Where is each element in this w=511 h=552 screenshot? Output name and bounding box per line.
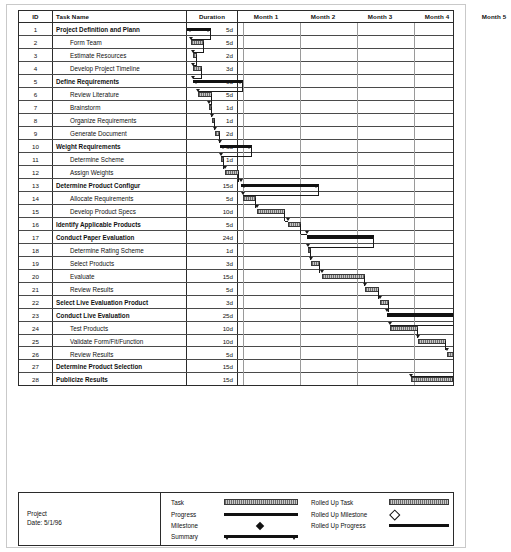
- cell-task-name: Publicize Results: [53, 373, 189, 385]
- dependency-arrow-icon: [191, 50, 195, 53]
- month-gridline-3: [357, 23, 358, 385]
- cell-task-name: Conduct Paper Evaluation: [53, 231, 189, 243]
- dependency-arrow-icon: [388, 322, 392, 325]
- cell-task-name: Review Literature: [53, 88, 203, 100]
- dependency-arrow-icon: [363, 283, 367, 286]
- cell-task-id: 17: [19, 231, 52, 243]
- gantt-task-bar[interactable]: [418, 339, 446, 344]
- footer-divider: [160, 493, 161, 545]
- cell-task-name: Evaluate: [53, 270, 203, 282]
- legend-summary-cap-right-icon: [291, 535, 297, 540]
- month-gridline-4: [414, 23, 415, 385]
- cell-task-name: Form Team: [53, 36, 203, 48]
- legend-swatch-rolled-up-task-bar: [389, 499, 449, 505]
- dependency-link: [210, 30, 211, 39]
- dependency-arrow-icon: [239, 179, 243, 182]
- cell-task-name: Review Results: [53, 348, 203, 360]
- dependency-link: [284, 211, 285, 220]
- cell-task-id: 6: [19, 88, 52, 100]
- cell-task-name: Review Results: [53, 283, 203, 295]
- cell-task-name: Define Requirements: [53, 75, 189, 87]
- gantt-task-bar[interactable]: [257, 209, 285, 214]
- dependency-link: [300, 224, 301, 233]
- summary-cap-left-icon: [241, 184, 247, 188]
- dependency-arrow-icon: [219, 153, 223, 156]
- dependency-arrow-icon: [416, 335, 420, 338]
- dependency-link: [201, 68, 202, 77]
- legend-label-rolled-up-progress: Rolled Up Progress: [311, 520, 366, 531]
- gantt-task-bar[interactable]: [365, 287, 379, 292]
- legend-label-task: Task: [171, 497, 184, 508]
- summary-cap-left-icon: [387, 313, 393, 317]
- dependency-arrow-icon: [207, 101, 211, 104]
- cell-task-name: Generate Document: [53, 127, 203, 139]
- dependency-link: [191, 39, 211, 40]
- cell-task-id: 10: [19, 140, 52, 152]
- cell-task-name: Conduct Live Evaluation: [53, 309, 189, 321]
- legend-label-rolled-up-milestone: Rolled Up Milestone: [311, 509, 367, 520]
- header-month-1: Month 1: [238, 11, 294, 23]
- legend-swatch-rolled-up-milestone-diamond-icon: [389, 509, 400, 520]
- chart-footer: Project Date: 5/1/96 Task Progress Miles…: [18, 492, 454, 546]
- legend-summary-cap-left-icon: [224, 535, 230, 540]
- legend-label-rolled-up-task: Rolled Up Task: [311, 497, 353, 508]
- legend-label-summary: Summary: [171, 531, 198, 542]
- summary-cap-left-icon: [187, 28, 193, 32]
- project-name: Project: [27, 509, 62, 518]
- cell-task-id: 18: [19, 244, 52, 256]
- cell-task-name: Determine Rating Scheme: [53, 244, 203, 256]
- cell-task-id: 9: [19, 127, 52, 139]
- cell-task-name: Develop Project Timeline: [53, 62, 203, 74]
- header-id: ID: [19, 11, 52, 23]
- dependency-arrow-icon: [409, 374, 413, 377]
- cell-task-id: 4: [19, 62, 52, 74]
- cell-task-id: 27: [19, 360, 52, 372]
- cell-task-id: 16: [19, 218, 52, 230]
- cell-task-name: Weight Requirements: [53, 140, 189, 152]
- cell-task-name: Determine Scheme: [53, 153, 203, 165]
- cell-task-id: 25: [19, 335, 52, 347]
- cell-task-id: 15: [19, 205, 52, 217]
- summary-cap-left-icon: [193, 80, 199, 84]
- gantt-task-bar[interactable]: [411, 377, 453, 382]
- cell-task-id: 3: [19, 49, 52, 61]
- cell-task-id: 1: [19, 23, 52, 35]
- gantt-task-bar[interactable]: [447, 352, 453, 357]
- cell-task-id: 8: [19, 114, 52, 126]
- legend-swatch-task-bar: [224, 499, 298, 505]
- cell-task-id: 21: [19, 283, 52, 295]
- dependency-arrow-icon: [189, 37, 193, 40]
- dependency-arrow-icon: [191, 63, 195, 66]
- dependency-arrow-icon: [196, 89, 200, 92]
- dependency-arrow-icon: [191, 76, 195, 79]
- dependency-link: [211, 94, 212, 103]
- gantt-task-bar[interactable]: [322, 274, 365, 279]
- dependency-link: [373, 237, 374, 246]
- cell-task-id: 23: [19, 309, 52, 321]
- legend-label-progress: Progress: [171, 509, 196, 520]
- dependency-link: [411, 376, 453, 377]
- cell-task-id: 2: [19, 36, 52, 48]
- gantt-summary-bar[interactable]: [307, 235, 374, 238]
- gantt-summary-bar[interactable]: [387, 313, 453, 316]
- cell-task-id: 7: [19, 101, 52, 113]
- header-month-5: Month 5: [466, 11, 511, 23]
- dependency-arrow-icon: [213, 127, 217, 130]
- legend-swatch-progress-bar: [224, 513, 298, 516]
- dependency-arrow-icon: [320, 270, 324, 273]
- dependency-link: [318, 185, 319, 194]
- header-task-name: Task Name: [53, 11, 189, 23]
- gantt-summary-bar[interactable]: [241, 184, 319, 187]
- dependency-arrow-icon: [241, 192, 245, 195]
- dependency-arrow-icon: [218, 140, 222, 143]
- cell-task-name: Organize Requirements: [53, 114, 203, 126]
- gantt-task-bar[interactable]: [225, 170, 239, 175]
- gantt-task-bar[interactable]: [198, 92, 212, 97]
- gantt-summary-bar[interactable]: [193, 80, 243, 83]
- dependency-link: [251, 146, 252, 155]
- cell-task-name: Estimate Resources: [53, 49, 203, 61]
- dependency-link: [390, 325, 453, 326]
- gantt-task-bar[interactable]: [390, 326, 418, 331]
- cell-task-name: Determine Product Configur: [53, 179, 189, 191]
